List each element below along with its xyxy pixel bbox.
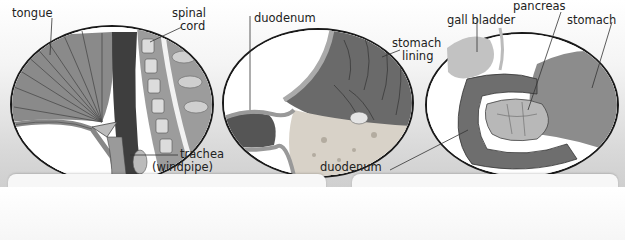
- label-stomach-lining-line2: lining: [402, 50, 433, 63]
- stomach-anatomy-drawing: [224, 30, 412, 176]
- stomach-section-oval: [222, 28, 414, 178]
- pancreas-anatomy-drawing: [427, 34, 617, 176]
- label-duodenum-top: duodenum: [254, 12, 316, 25]
- label-duodenum-bottom: duodenum: [320, 161, 382, 174]
- label-spinal-cord-line2: cord: [180, 20, 205, 33]
- pancreas-region-oval: [425, 32, 619, 178]
- label-trachea-line2: (windpipe): [152, 161, 213, 174]
- label-tongue: tongue: [12, 7, 53, 20]
- label-pancreas: pancreas: [513, 0, 566, 13]
- content-card-right: [352, 174, 618, 187]
- label-gall-bladder: gall bladder: [447, 14, 515, 27]
- label-stomach: stomach: [567, 14, 616, 27]
- content-card-left: [8, 174, 326, 187]
